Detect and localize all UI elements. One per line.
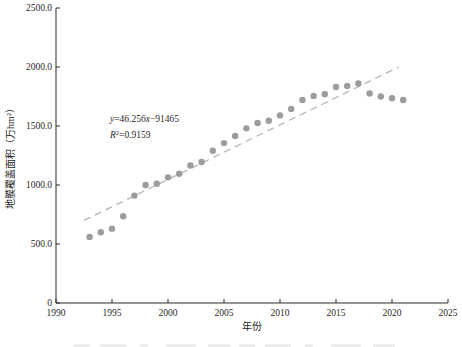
equation-mid: =46.256: [114, 114, 146, 124]
x-tick-label: 1990: [47, 308, 66, 318]
data-point: [109, 225, 115, 231]
x-tick-label: 2010: [271, 308, 290, 318]
y-tick-label: 1500.0: [26, 121, 52, 131]
data-point: [378, 93, 384, 99]
equation-tail: −91465: [150, 114, 179, 124]
data-point: [288, 106, 294, 112]
data-point: [86, 234, 92, 240]
data-point: [131, 192, 137, 198]
x-tick-label: 2015: [327, 308, 346, 318]
y-tick-label: 0: [47, 298, 52, 308]
data-point: [98, 229, 104, 235]
x-tick-label: 1995: [103, 308, 122, 318]
x-tick-label: 2005: [215, 308, 234, 318]
axes-spines: [56, 8, 448, 303]
data-point: [400, 97, 406, 103]
y-axis: 0500.01000.01500.02000.02500.0: [26, 3, 60, 308]
y-tick-label: 1000.0: [26, 180, 52, 190]
y-axis-title: 地膜覆盖面积（万hm²）: [4, 103, 16, 209]
data-point: [333, 84, 339, 90]
x-tick-label: 2000: [159, 308, 178, 318]
r-squared-annotation: R2=0.9159: [109, 129, 151, 141]
y-tick-label: 500.0: [31, 239, 53, 249]
scatter-chart-figure: 0500.01000.01500.02000.02500.0 199019952…: [0, 0, 462, 347]
x-axis: 19901995200020052010201520202025: [47, 299, 458, 318]
data-point: [366, 90, 372, 96]
data-point: [389, 95, 395, 101]
r-value: =0.9159: [119, 130, 151, 140]
data-point: [154, 181, 160, 187]
scatter-series: [86, 80, 406, 240]
data-point: [277, 112, 283, 118]
data-point: [266, 117, 272, 123]
data-point: [210, 148, 216, 154]
x-axis-title: 年份: [242, 320, 262, 332]
data-point: [165, 174, 171, 180]
data-point: [310, 93, 316, 99]
data-point: [243, 125, 249, 131]
data-point: [254, 120, 260, 126]
y-tick-label: 2500.0: [26, 3, 52, 13]
data-point: [221, 140, 227, 146]
regression-equation: y=46.256x−91465: [109, 114, 179, 124]
trend-line-group: [84, 67, 399, 220]
y-tick-label: 2000.0: [26, 62, 52, 72]
x-tick-label: 2020: [383, 308, 402, 318]
data-point: [198, 159, 204, 165]
data-point: [187, 162, 193, 168]
data-point: [322, 91, 328, 97]
data-point: [355, 80, 361, 86]
x-tick-label: 2025: [439, 308, 458, 318]
data-point: [299, 97, 305, 103]
data-point: [120, 213, 126, 219]
data-point: [176, 171, 182, 177]
data-point: [142, 182, 148, 188]
trend-line: [84, 67, 399, 220]
data-point: [232, 133, 238, 139]
data-point: [344, 83, 350, 89]
chart-canvas: 0500.01000.01500.02000.02500.0 199019952…: [0, 0, 462, 347]
